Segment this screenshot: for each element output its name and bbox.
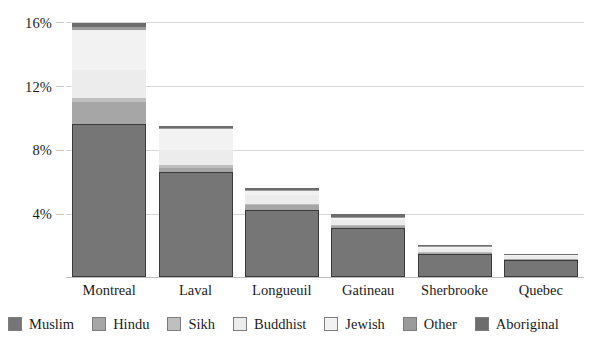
bar-stack[interactable] <box>72 23 146 277</box>
y-axis-tick-mark <box>56 86 64 87</box>
y-axis-tick-mark <box>56 214 64 215</box>
bar-stack[interactable] <box>245 188 319 277</box>
legend-label: Sikh <box>188 316 215 333</box>
x-axis-baseline <box>66 277 584 278</box>
bar-stack[interactable] <box>418 245 492 277</box>
legend-item-jewish[interactable]: Jewish <box>324 316 402 333</box>
bar-segment[interactable] <box>159 172 233 277</box>
y-axis-tick-label: 12% <box>0 78 52 95</box>
legend-swatch-icon <box>8 317 22 331</box>
y-axis: 16%12%8%4% <box>0 10 52 278</box>
x-axis-label-sherbrooke: Sherbrooke <box>421 282 488 299</box>
y-axis-tick-label: 8% <box>0 142 52 159</box>
x-axis-label-longueuil: Longueuil <box>252 282 312 299</box>
bar-segment[interactable] <box>72 102 146 124</box>
bar-segment[interactable] <box>159 150 233 165</box>
bar-stack[interactable] <box>331 214 405 277</box>
legend-label: Other <box>424 316 457 333</box>
y-axis-tick-mark <box>56 150 64 151</box>
bar-segment[interactable] <box>504 260 578 277</box>
legend-item-aboriginal[interactable]: Aboriginal <box>475 316 559 333</box>
bar-segment[interactable] <box>331 228 405 277</box>
x-axis-label-gatineau: Gatineau <box>342 282 394 299</box>
legend-label: Buddhist <box>254 316 306 333</box>
bar-stack[interactable] <box>504 254 578 277</box>
legend-item-other[interactable]: Other <box>403 316 475 333</box>
y-axis-tick-label: 16% <box>0 14 52 31</box>
legend-swatch-icon <box>167 317 181 331</box>
legend-label: Hindu <box>113 316 149 333</box>
bar-segment[interactable] <box>72 124 146 277</box>
x-axis-label-montreal: Montreal <box>83 282 136 299</box>
plot-area <box>66 10 584 278</box>
stacked-bar-chart: 16%12%8%4% MontrealLavalLongueuilGatinea… <box>0 0 596 340</box>
legend-swatch-icon <box>233 317 247 331</box>
legend-item-hindu[interactable]: Hindu <box>92 316 167 333</box>
legend-swatch-icon <box>475 317 489 331</box>
legend-item-muslim[interactable]: Muslim <box>8 316 92 333</box>
bar-segment[interactable] <box>72 30 146 71</box>
bar-stack[interactable] <box>159 126 233 277</box>
legend-swatch-icon <box>403 317 417 331</box>
x-axis-label-quebec: Quebec <box>519 282 563 299</box>
bar-segment[interactable] <box>72 70 146 97</box>
legend-label: Aboriginal <box>496 316 559 333</box>
bar-segment[interactable] <box>159 129 233 150</box>
y-axis-tick-label: 4% <box>0 206 52 223</box>
bar-segment[interactable] <box>418 254 492 277</box>
bar-segment[interactable] <box>245 195 319 204</box>
legend-swatch-icon <box>324 317 338 331</box>
x-axis-category-labels: MontrealLavalLongueuilGatineauSherbrooke… <box>66 282 584 304</box>
legend-label: Muslim <box>29 316 74 333</box>
x-axis-label-laval: Laval <box>179 282 212 299</box>
legend-label: Jewish <box>345 316 384 333</box>
legend-swatch-icon <box>92 317 106 331</box>
chart-legend: MuslimHinduSikhBuddhistJewishOtherAborig… <box>8 313 592 335</box>
bar-segment[interactable] <box>245 210 319 277</box>
legend-item-sikh[interactable]: Sikh <box>167 316 233 333</box>
y-axis-tick-mark <box>56 22 64 23</box>
legend-item-buddhist[interactable]: Buddhist <box>233 316 324 333</box>
